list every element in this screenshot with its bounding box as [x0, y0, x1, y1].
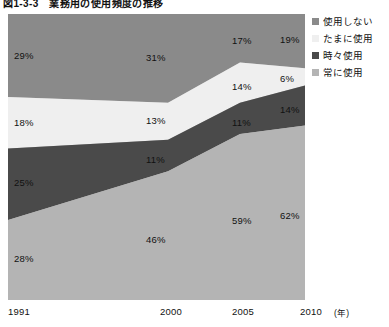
chart-title: 図1-3-3 業務用の使用頻度の推移: [3, 0, 164, 10]
data-label-s2-1991: 25%: [14, 177, 34, 188]
data-label-s2-2000: 11%: [146, 154, 165, 165]
legend-swatch-icon: [312, 52, 319, 59]
data-label-s0-2010: 19%: [280, 34, 300, 45]
x-tick-2010: 2010: [300, 306, 322, 317]
legend-label-0: 使用しない: [323, 14, 374, 28]
data-label-s1-2005: 14%: [232, 81, 252, 92]
x-tick-1991: 1991: [8, 306, 30, 317]
x-axis-unit: (年): [334, 306, 349, 318]
chart-page: 図1-3-3 業務用の使用頻度の推移 29%31%17%19%18%13%14%…: [0, 0, 389, 327]
legend-swatch-icon: [312, 35, 319, 42]
x-tick-2005: 2005: [232, 306, 254, 317]
legend: 使用しない たまに使用 時々使用 常に使用: [312, 13, 389, 81]
data-label-s2-2010: 14%: [280, 104, 300, 115]
data-label-s3-2010: 62%: [280, 210, 300, 221]
legend-label-3: 常に使用: [323, 65, 363, 79]
data-label-s1-2010: 6%: [280, 73, 294, 84]
data-label-s2-2005: 11%: [232, 117, 251, 128]
legend-label-1: たまに使用: [323, 31, 374, 45]
data-label-s0-2000: 31%: [146, 52, 166, 63]
legend-swatch-icon: [312, 69, 319, 76]
legend-item-3[interactable]: 常に使用: [312, 64, 389, 80]
data-label-s1-2000: 13%: [146, 115, 166, 126]
data-label-s0-1991: 29%: [14, 50, 34, 61]
data-label-s0-2005: 17%: [232, 35, 252, 46]
legend-item-2[interactable]: 時々使用: [312, 47, 389, 63]
legend-item-0[interactable]: 使用しない: [312, 13, 389, 29]
data-label-s3-2000: 46%: [146, 234, 166, 245]
x-axis: 1991 2000 2005 2010 (年): [0, 302, 389, 324]
data-label-s1-1991: 18%: [14, 117, 34, 128]
data-label-s3-2005: 59%: [232, 215, 252, 226]
data-label-s3-1991: 28%: [14, 253, 34, 264]
legend-swatch-icon: [312, 18, 319, 25]
x-tick-2000: 2000: [160, 306, 182, 317]
legend-label-2: 時々使用: [323, 48, 363, 62]
legend-item-1[interactable]: たまに使用: [312, 30, 389, 46]
